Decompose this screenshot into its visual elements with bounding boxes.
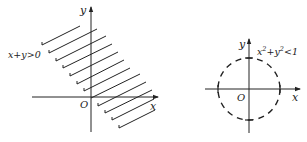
x-axis-label: x — [150, 100, 157, 113]
diagram-canvas: y x O x+y>0 y x O x2+y2<1 — [0, 0, 307, 142]
hatch-lines — [42, 26, 155, 128]
region-label: x+y>0 — [8, 49, 41, 60]
origin-label: O — [80, 99, 88, 110]
region-label: x2+y2<1 — [257, 45, 298, 57]
right-graph: y x O x2+y2<1 — [205, 38, 300, 133]
boundary-ticks — [42, 42, 119, 128]
left-graph: y x O x+y>0 — [8, 4, 158, 132]
y-axis-label: y — [238, 38, 246, 51]
x-axis-label: x — [292, 91, 299, 104]
origin-label: O — [237, 92, 245, 103]
y-axis-label: y — [79, 4, 87, 17]
